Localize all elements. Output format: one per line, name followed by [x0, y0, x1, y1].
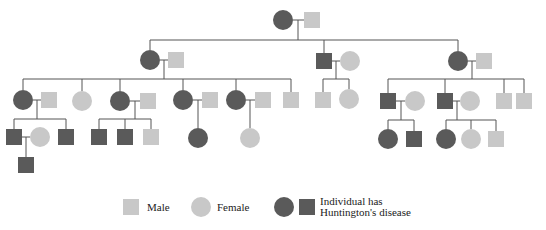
unaffected-male-square-icon [202, 92, 218, 108]
unaffected-male-square-icon [304, 12, 320, 28]
unaffected-female-circle-icon [240, 128, 260, 148]
affected-female-circle-icon [226, 90, 246, 110]
legend-male-label: Male [147, 202, 170, 213]
affected-male-square-icon [437, 93, 453, 109]
affected-male-square-icon [58, 129, 74, 145]
legend-female-circle-icon [191, 197, 211, 217]
affected-male-square-icon [91, 129, 107, 145]
affected-female-circle-icon [436, 129, 456, 149]
affected-male-square-icon [117, 129, 133, 145]
unaffected-female-circle-icon [405, 91, 425, 111]
unaffected-male-square-icon [516, 93, 532, 109]
unaffected-male-square-icon [143, 129, 159, 145]
individuals [6, 10, 532, 173]
affected-male-square-icon [406, 131, 422, 147]
affected-male-square-icon [18, 157, 34, 173]
unaffected-female-circle-icon [340, 51, 360, 71]
pedigree-diagram [0, 0, 546, 230]
affected-female-circle-icon [378, 129, 398, 149]
affected-female-circle-icon [188, 128, 208, 148]
unaffected-male-square-icon [496, 93, 512, 109]
legend-affected-label-line2: Huntington's disease [320, 207, 411, 218]
affected-male-square-icon [316, 53, 332, 69]
affected-male-square-icon [380, 93, 396, 109]
affected-female-circle-icon [448, 51, 468, 71]
unaffected-male-square-icon [283, 92, 299, 108]
affected-female-circle-icon [140, 50, 160, 70]
legend-affected-female-circle-icon [274, 197, 294, 217]
affected-male-square-icon [6, 129, 22, 145]
unaffected-male-square-icon [168, 52, 184, 68]
unaffected-female-circle-icon [460, 91, 480, 111]
affected-female-circle-icon [273, 10, 293, 30]
affected-female-circle-icon [173, 90, 193, 110]
unaffected-male-square-icon [315, 92, 331, 108]
legend-male-square-icon [123, 199, 139, 215]
affected-female-circle-icon [110, 91, 130, 111]
unaffected-female-circle-icon [72, 91, 92, 111]
unaffected-male-square-icon [488, 131, 504, 147]
unaffected-male-square-icon [41, 92, 57, 108]
unaffected-female-circle-icon [339, 89, 359, 109]
unaffected-female-circle-icon [461, 129, 481, 149]
legend-female-label: Female [217, 202, 249, 213]
unaffected-female-circle-icon [30, 127, 50, 147]
unaffected-male-square-icon [140, 93, 156, 109]
unaffected-male-square-icon [476, 53, 492, 69]
affected-female-circle-icon [13, 90, 33, 110]
unaffected-male-square-icon [255, 92, 271, 108]
legend-affected-male-square-icon [299, 199, 315, 215]
